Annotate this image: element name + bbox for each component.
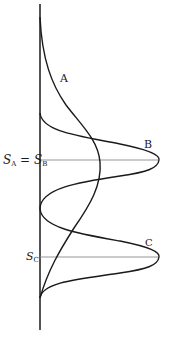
level-label-sc: SC [26,250,39,264]
s-a-symbol: S [3,153,11,167]
equals-sign: = [16,153,34,167]
distribution-diagram: A B C SA = SB SC [0,0,169,340]
s-b-symbol: S [34,153,42,167]
curve-a [40,17,100,298]
s-c-subscript: C [34,256,39,264]
curve-a-label: A [59,72,69,85]
level-label-sa-sb: SA = SB [3,153,47,168]
curve-c-label: C [145,237,153,248]
curve-b-label: B [144,138,152,151]
s-b-subscript: B [42,160,47,168]
